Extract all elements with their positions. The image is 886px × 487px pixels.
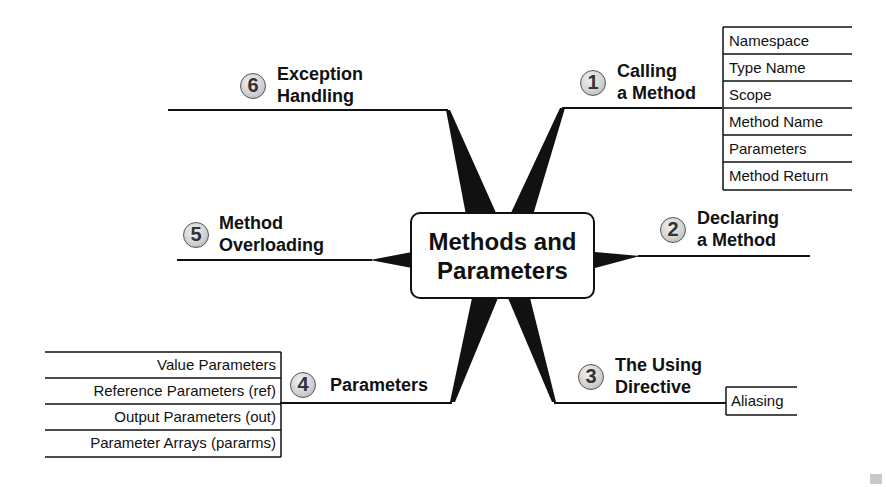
branch-using-directive[interactable]: 3 The Using Directive (578, 355, 718, 401)
branch-label: a Method (617, 83, 696, 103)
sub-item-value-parameters[interactable]: Value Parameters (45, 356, 276, 374)
branch-label: a Method (697, 230, 776, 250)
sub-item-method-name[interactable]: Method Name (729, 113, 823, 131)
branch-label: Directive (615, 377, 691, 397)
branch-label: Method (219, 213, 283, 233)
sub-item-output-parameters[interactable]: Output Parameters (out) (45, 408, 276, 426)
spoke-exception-handling (446, 110, 497, 215)
sub-item-scope[interactable]: Scope (729, 86, 772, 104)
spoke-method-overloading (370, 252, 412, 268)
central-topic-line1: Methods and (429, 227, 577, 256)
spoke-parameters (450, 298, 498, 402)
branch-method-overloading[interactable]: 5 Method Overloading (183, 213, 353, 259)
branch-label: Declaring (697, 208, 779, 228)
number-3-icon: 3 (578, 364, 604, 390)
number-4-icon: 4 (290, 372, 316, 398)
central-topic-line2: Parameters (437, 256, 568, 285)
spoke-declaring-method (595, 252, 640, 268)
sub-item-parameter-arrays[interactable]: Parameter Arrays (pararms) (45, 434, 276, 452)
spoke-calling-method (510, 108, 565, 215)
branch-label: Calling (617, 61, 677, 81)
corner-artifact (870, 474, 882, 484)
sub-item-namespace[interactable]: Namespace (729, 32, 809, 50)
sub-item-aliasing[interactable]: Aliasing (731, 392, 784, 410)
branch-label: Parameters (330, 375, 428, 395)
branch-parameters[interactable]: 4 Parameters (290, 371, 450, 401)
central-topic[interactable]: Methods and Parameters (410, 212, 595, 299)
branch-label: Exception (277, 64, 363, 84)
branch-label: Handling (277, 86, 354, 106)
number-2-icon: 2 (660, 217, 686, 243)
branch-calling-method[interactable]: 1 Calling a Method (580, 61, 720, 107)
branch-label: Overloading (219, 235, 324, 255)
number-1-icon: 1 (580, 70, 606, 96)
number-5-icon: 5 (183, 222, 209, 248)
sub-item-parameters[interactable]: Parameters (729, 140, 807, 158)
branch-declaring-method[interactable]: 2 Declaring a Method (660, 208, 800, 254)
number-6-icon: 6 (240, 73, 266, 99)
branch-exception-handling[interactable]: 6 Exception Handling (240, 64, 390, 110)
sub-item-reference-parameters[interactable]: Reference Parameters (ref) (45, 382, 276, 400)
branch-label: The Using (615, 355, 702, 375)
spoke-using-directive (508, 298, 556, 402)
sub-item-method-return[interactable]: Method Return (729, 167, 828, 185)
calling-method-subtable-lines (723, 27, 852, 190)
sub-item-type-name[interactable]: Type Name (729, 59, 806, 77)
